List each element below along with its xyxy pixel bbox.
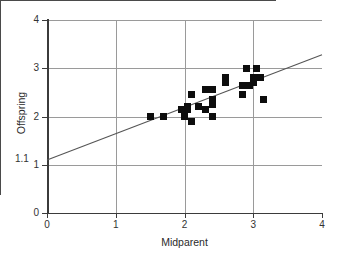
scatter-chart: 01234 01234 1.1 Midparent Offspring: [0, 0, 343, 262]
data-point: [160, 113, 167, 120]
y-tick-label: 3: [33, 63, 39, 73]
data-point: [239, 91, 246, 98]
data-point: [209, 86, 216, 93]
gridline-vertical: [253, 20, 254, 213]
tick-mark-y: [42, 20, 47, 21]
data-point: [184, 103, 191, 110]
y-tick-label: 4: [33, 15, 39, 25]
y-tick-label-slot: 0: [0, 208, 39, 218]
data-point: [147, 113, 154, 120]
y-intercept-label: 1.1: [15, 154, 29, 164]
data-point: [243, 65, 250, 72]
y-axis-title: Offspring: [15, 78, 27, 148]
x-tick-label: 1: [101, 219, 131, 230]
y-tick-label-slot: 4: [0, 15, 39, 25]
tick-mark-x: [322, 214, 323, 218]
tick-mark-y: [42, 165, 47, 166]
tick-mark-y: [42, 68, 47, 69]
data-point: [222, 79, 229, 86]
tick-mark-x: [47, 214, 48, 218]
x-tick-label: 2: [170, 219, 200, 230]
x-tick-label: 4: [307, 219, 337, 230]
y-tick-label-slot: 3: [0, 63, 39, 73]
y-tick-label: 1: [33, 160, 39, 170]
data-point: [260, 96, 267, 103]
x-axis-title: Midparent: [47, 236, 322, 248]
x-tick-label: 3: [238, 219, 268, 230]
y-axis-line: [47, 19, 49, 214]
data-point: [253, 65, 260, 72]
tick-mark-x: [185, 214, 186, 218]
y-tick-label: 2: [33, 112, 39, 122]
data-point: [188, 118, 195, 125]
plot-frame-top: [0, 0, 276, 1]
tick-mark-x: [116, 214, 117, 218]
data-point: [188, 91, 195, 98]
x-tick-label: 0: [32, 219, 62, 230]
tick-mark-x: [253, 214, 254, 218]
data-point: [209, 113, 216, 120]
data-point: [257, 74, 264, 81]
tick-mark-y: [42, 117, 47, 118]
y-tick-label: 0: [33, 208, 39, 218]
gridline-vertical: [116, 20, 117, 213]
data-point: [209, 101, 216, 108]
